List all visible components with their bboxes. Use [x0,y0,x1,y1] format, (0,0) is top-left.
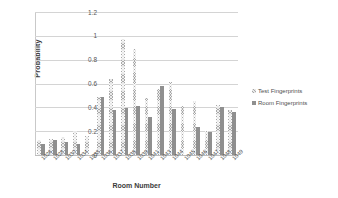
bar-group [190,12,202,155]
bar-group [202,12,214,155]
y-tick-label: 0.8 [69,56,97,63]
bar-group [154,12,166,155]
bar-group [214,12,226,155]
y-tick-label: 0.4 [69,104,97,111]
legend-label: Test Fingerprints [258,88,302,94]
legend-label: Room Fingerprints [258,100,307,106]
bar-group [107,12,119,155]
bar-group [131,12,143,155]
bar-group [119,12,131,155]
y-tick-label: 0.6 [69,80,97,87]
legend-item-room-fingerprints: Room Fingerprints [252,100,338,106]
y-tick-label: 0.2 [69,128,97,135]
legend: Test Fingerprints Room Fingerprints [252,88,338,112]
y-tick-label: 1 [69,32,97,39]
bar-group [178,12,190,155]
bar-group [47,12,59,155]
legend-swatch-icon [252,101,256,105]
bar-group [142,12,154,155]
plot-area [35,12,238,155]
bar-group [166,12,178,155]
bar-groups [35,12,238,155]
legend-item-test-fingerprints: Test Fingerprints [252,88,338,94]
bar-group [226,12,238,155]
legend-swatch-icon [252,89,256,93]
x-axis-title: Room Number [35,182,238,189]
y-tick-label: 1.2 [69,9,97,16]
bar-group [35,12,47,155]
x-axis-ticks: 1026102810301034103510361037103810391041… [35,157,238,183]
bar-chart: Probability 00.20.40.60.811.2 1026102810… [0,0,338,198]
